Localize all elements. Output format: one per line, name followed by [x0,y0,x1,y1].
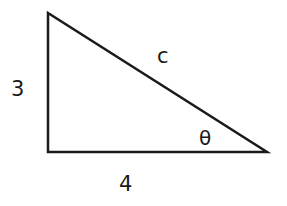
vertical-side-label: 3 [11,77,24,101]
triangle-diagram: 3 c θ 4 [0,0,287,206]
angle-label: θ [199,126,211,150]
right-triangle [48,13,267,152]
hypotenuse-label: c [157,44,169,68]
horizontal-side-label: 4 [119,172,132,196]
